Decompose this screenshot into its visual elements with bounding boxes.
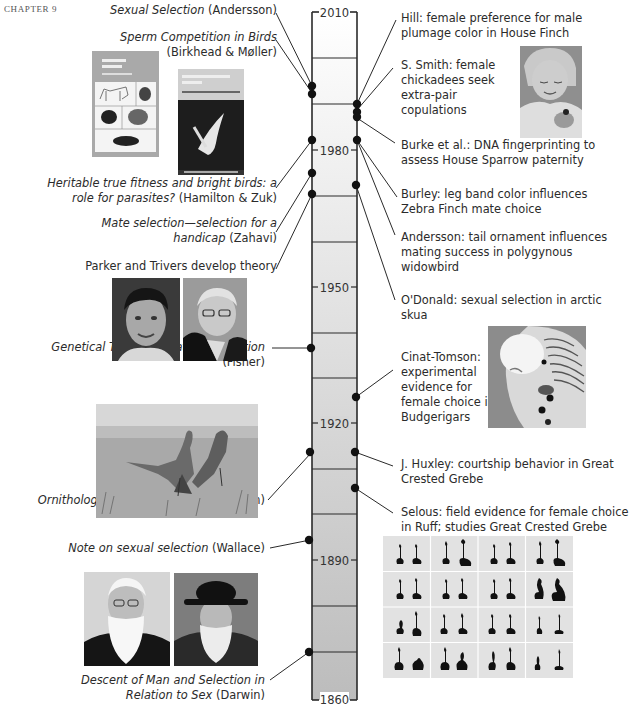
event-odonald: O'Donald: sexual selection in arctic sku… <box>401 293 602 323</box>
event-text: J. Huxley: courtship behavior in Great <box>401 457 614 471</box>
event-burley: Burley: leg band color influences Zebra … <box>401 187 587 217</box>
event-text: mating success in polygynous <box>401 245 572 259</box>
photo-trivers <box>183 278 247 361</box>
event-text: S. Smith: female <box>401 58 495 72</box>
event-author: (Darwin) <box>216 688 265 702</box>
book-cover-sexual-selection <box>92 51 159 157</box>
event-title: Heritable true fitness and bright birds:… <box>47 176 277 190</box>
event-text: Budgerigars <box>401 410 470 424</box>
event-hill: Hill: female preference for male plumage… <box>401 11 582 41</box>
event-hamilton-zuk: Heritable true fitness and bright birds:… <box>47 176 277 206</box>
event-text: Hill: female preference for male <box>401 11 582 25</box>
event-text: Parker and Trivers develop theory <box>85 259 277 273</box>
event-text: Burley: leg band color influences <box>401 187 587 201</box>
event-andersson-widowbird: Andersson: tail ornament influences mati… <box>401 230 607 275</box>
year-label-1890: 1890 <box>320 554 349 568</box>
photo-budgerigar <box>488 326 586 428</box>
event-title: Descent of Man and Selection in <box>81 673 265 687</box>
event-author: (Birkhead & Møller) <box>166 45 277 59</box>
painting-finn-birds <box>96 404 258 518</box>
event-text: Cinat-Tomson: <box>401 350 481 364</box>
event-burke: Burke et al.: DNA fingerprinting to asse… <box>401 138 595 168</box>
event-title: Relation to Sex <box>126 688 213 702</box>
event-text: female choice in <box>401 395 495 409</box>
event-text: widowbird <box>401 260 459 274</box>
photo-wallace <box>84 572 170 666</box>
event-zahavi: Mate selection—selection for a handicap … <box>101 216 277 246</box>
year-label-1920: 1920 <box>320 417 349 431</box>
event-author: (Andersson) <box>208 3 277 17</box>
event-title: role for parasites? <box>72 191 175 205</box>
event-author: (Hamilton & Zuk) <box>179 191 277 205</box>
event-text: evidence for <box>401 380 472 394</box>
photo-darwin <box>174 573 258 666</box>
event-text: plumage color in House Finch <box>401 26 569 40</box>
event-cinat-tomson: Cinat-Tomson: experimental evidence for … <box>401 350 495 425</box>
photo-s-smith <box>520 46 582 138</box>
event-selous: Selous: field evidence for female choice… <box>401 505 629 535</box>
event-text: Crested Grebe <box>401 472 483 486</box>
photo-parker <box>112 278 180 361</box>
event-text: Andersson: tail ornament influences <box>401 230 607 244</box>
event-title: Mate selection—selection for a <box>101 216 277 230</box>
year-label-1980: 1980 <box>320 144 349 158</box>
event-text: O'Donald: sexual selection in arctic <box>401 293 602 307</box>
event-text: copulations <box>401 103 467 117</box>
event-text: Selous: field evidence for female choice <box>401 505 629 519</box>
event-author: (Zahavi) <box>229 231 277 245</box>
event-title: Sperm Competition in Birds <box>120 30 277 44</box>
event-darwin: Descent of Man and Selection in Relation… <box>81 673 265 703</box>
event-s-smith: S. Smith: female chickadees seek extra-p… <box>401 58 495 118</box>
event-text: Zebra Finch mate choice <box>401 202 542 216</box>
event-text: assess House Sparrow paternity <box>401 153 584 167</box>
book-cover-sperm-competition <box>178 69 244 175</box>
event-huxley: J. Huxley: courtship behavior in Great C… <box>401 457 614 487</box>
event-title: Sexual Selection <box>110 3 204 17</box>
event-title: Note on sexual selection <box>68 541 208 555</box>
event-text: experimental <box>401 365 477 379</box>
event-parker-trivers: Parker and Trivers develop theory <box>85 259 277 274</box>
event-author: (Wallace) <box>212 541 265 555</box>
event-text: chickadees seek <box>401 73 495 87</box>
year-label-2010: 2010 <box>320 6 349 20</box>
event-text: Burke et al.: DNA fingerprinting to <box>401 138 595 152</box>
year-label-1860: 1860 <box>320 693 349 707</box>
event-text: in Ruff; studies Great Crested Grebe <box>401 520 607 534</box>
event-text: extra-pair <box>401 88 457 102</box>
photo-grebe-courtship-grid <box>383 536 573 678</box>
event-wallace: Note on sexual selection (Wallace) <box>68 541 265 556</box>
timeline-bar <box>312 12 357 700</box>
year-label-1950: 1950 <box>320 281 349 295</box>
event-andersson-book: Sexual Selection (Andersson) <box>110 3 277 18</box>
event-title: handicap <box>173 231 225 245</box>
event-text: skua <box>401 308 427 322</box>
